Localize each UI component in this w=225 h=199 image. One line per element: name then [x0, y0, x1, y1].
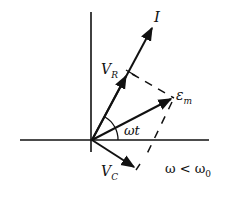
- frequency-condition: ω < ω0: [165, 162, 211, 179]
- dashed-line-top: [132, 74, 174, 98]
- vc-label: VC: [101, 164, 118, 182]
- phasor-diagram: I VR εm ωt VC ω < ω0: [0, 0, 225, 199]
- angle-label: ωt: [124, 124, 140, 137]
- vc-end-tick: [136, 164, 140, 170]
- angle-arc: [105, 117, 118, 140]
- current-label: I: [154, 10, 160, 25]
- vc-phasor: [92, 140, 134, 167]
- emf-label: εm: [176, 88, 192, 106]
- vr-label: VR: [101, 62, 118, 80]
